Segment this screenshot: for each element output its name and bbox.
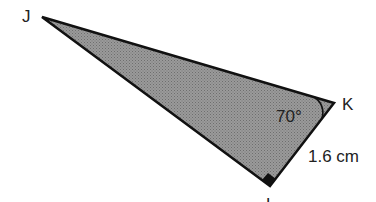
vertex-label-k: K <box>342 95 354 114</box>
side-label-kl: 1.6 cm <box>308 147 359 166</box>
triangle-diagram: J K L 70° 1.6 cm <box>0 0 376 202</box>
vertex-label-j: J <box>22 7 31 26</box>
angle-label-k: 70° <box>276 107 302 126</box>
triangle-jkl <box>42 17 334 186</box>
vertex-label-l: L <box>266 195 275 202</box>
